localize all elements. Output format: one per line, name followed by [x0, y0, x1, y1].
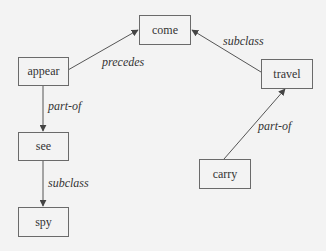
node-travel: travel [261, 59, 313, 89]
node-label: spy [35, 215, 52, 230]
node-label: come [152, 23, 178, 38]
node-come: come [139, 15, 191, 45]
node-see: see [18, 132, 69, 161]
node-label: carry [213, 167, 238, 182]
node-appear: appear [18, 57, 69, 86]
node-carry: carry [199, 159, 251, 189]
edge-label-precedes: precedes [102, 55, 144, 70]
edge-label-subclass-travel: subclass [223, 34, 264, 49]
edge-label-subclass-see: subclass [48, 176, 89, 191]
edge-label-part-of-carry: part-of [258, 119, 291, 134]
node-label: appear [28, 64, 60, 79]
node-label: see [36, 139, 51, 154]
node-label: travel [273, 67, 300, 82]
edge-label-part-of-appear: part-of [48, 99, 81, 114]
node-spy: spy [18, 207, 69, 237]
